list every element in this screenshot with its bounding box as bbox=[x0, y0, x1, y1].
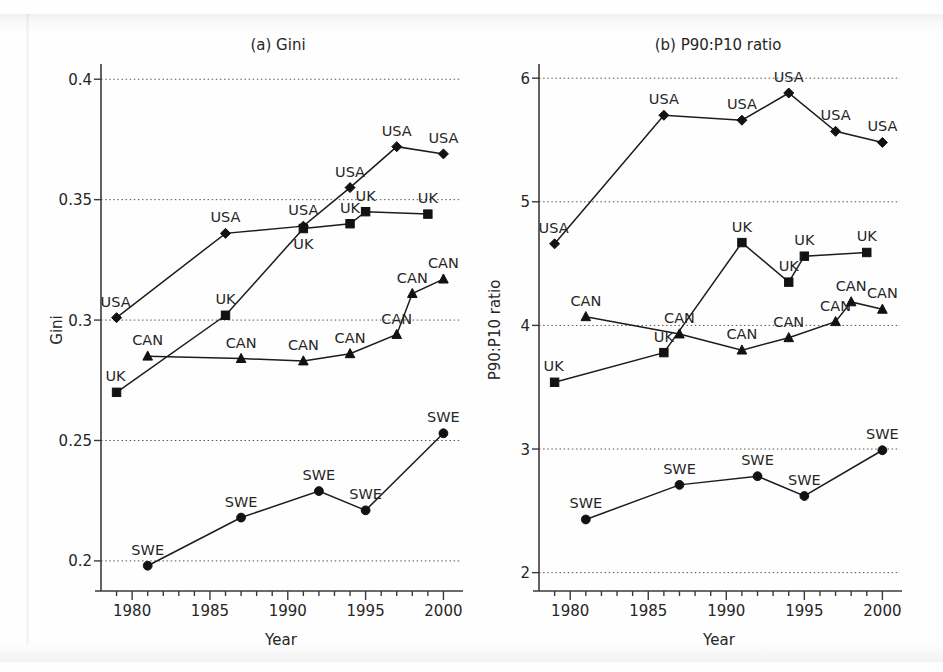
point-label-CAN: CAN bbox=[288, 337, 319, 353]
marker-circle bbox=[315, 487, 324, 496]
y-tick-label: 0.25 bbox=[59, 432, 92, 450]
series-CAN: CANCANCANCANCANCANCAN bbox=[132, 255, 459, 365]
point-label-USA: USA bbox=[101, 294, 131, 310]
marker-triangle bbox=[392, 329, 402, 338]
marker-circle bbox=[878, 446, 887, 455]
data-point-marker bbox=[392, 329, 402, 338]
marker-diamond bbox=[438, 149, 448, 159]
data-point-marker bbox=[361, 506, 370, 515]
marker-square bbox=[863, 248, 871, 256]
point-label-USA: USA bbox=[867, 118, 897, 134]
data-point-marker bbox=[143, 561, 152, 570]
point-label-UK: UK bbox=[544, 358, 565, 374]
data-point-marker bbox=[753, 472, 762, 481]
marker-square bbox=[550, 378, 558, 386]
series-CAN: CANCANCANCANCANCANCAN bbox=[570, 278, 897, 354]
series-UK: UKUKUKUKUKUK bbox=[106, 188, 439, 397]
data-point-marker bbox=[785, 278, 793, 286]
data-point-marker bbox=[361, 207, 369, 215]
x-tick-label: 1995 bbox=[347, 602, 385, 620]
point-label-SWE: SWE bbox=[788, 472, 821, 488]
panel-title: (a) Gini bbox=[250, 36, 305, 54]
marker-circle bbox=[800, 492, 809, 501]
marker-circle bbox=[361, 506, 370, 515]
marker-square bbox=[800, 252, 808, 260]
data-point-marker bbox=[878, 446, 887, 455]
point-label-USA: USA bbox=[428, 130, 458, 146]
data-point-marker bbox=[800, 492, 809, 501]
x-axis-label: Year bbox=[264, 631, 298, 649]
point-label-UK: UK bbox=[215, 291, 236, 307]
point-label-UK: UK bbox=[293, 236, 314, 252]
y-tick-label: 5 bbox=[520, 193, 530, 211]
data-point-marker bbox=[660, 348, 668, 356]
point-label-USA: USA bbox=[211, 209, 241, 225]
x-tick-label: 1985 bbox=[629, 602, 667, 620]
point-label-USA: USA bbox=[539, 220, 569, 236]
panel-title: (b) P90:P10 ratio bbox=[655, 36, 782, 54]
x-tick-label: 2000 bbox=[424, 602, 462, 620]
x-tick-label: 1990 bbox=[707, 602, 745, 620]
data-point-marker bbox=[346, 220, 354, 228]
data-point-marker bbox=[237, 513, 246, 522]
point-label-SWE: SWE bbox=[225, 494, 258, 510]
figure-canvas: (a) GiniGiniYear0.20.250.30.350.41980198… bbox=[0, 0, 943, 672]
point-label-USA: USA bbox=[821, 107, 851, 123]
data-point-marker bbox=[221, 311, 229, 319]
marker-circle bbox=[581, 515, 590, 524]
point-label-CAN: CAN bbox=[836, 278, 867, 294]
y-tick-label: 0.2 bbox=[68, 552, 92, 570]
y-tick-label: 6 bbox=[520, 70, 530, 88]
point-label-USA: USA bbox=[727, 96, 757, 112]
data-point-marker bbox=[737, 115, 747, 125]
point-label-CAN: CAN bbox=[226, 335, 257, 351]
marker-diamond bbox=[737, 115, 747, 125]
x-tick-label: 1980 bbox=[113, 602, 151, 620]
series-SWE: SWESWESWESWESWE bbox=[131, 409, 459, 570]
data-point-marker bbox=[439, 274, 449, 283]
point-label-UK: UK bbox=[732, 219, 753, 235]
y-axis-label: P90:P10 ratio bbox=[486, 280, 504, 381]
x-tick-label: 1980 bbox=[551, 602, 589, 620]
marker-square bbox=[660, 348, 668, 356]
data-point-marker bbox=[112, 388, 120, 396]
data-point-marker bbox=[581, 515, 590, 524]
point-label-CAN: CAN bbox=[867, 285, 898, 301]
series-USA: USAUSAUSAUSAUSAUSA bbox=[101, 123, 459, 323]
y-axis-label: Gini bbox=[48, 315, 66, 344]
data-point-marker bbox=[438, 149, 448, 159]
point-label-USA: USA bbox=[335, 164, 365, 180]
series-USA: USAUSAUSAUSAUSAUSA bbox=[539, 69, 898, 249]
data-point-marker bbox=[299, 224, 307, 232]
marker-circle bbox=[143, 561, 152, 570]
y-tick-label: 0.35 bbox=[59, 191, 92, 209]
point-label-SWE: SWE bbox=[303, 467, 336, 483]
marker-square bbox=[738, 238, 746, 246]
point-label-UK: UK bbox=[106, 368, 127, 384]
y-tick-label: 0.3 bbox=[68, 312, 92, 330]
series-line-SWE bbox=[148, 433, 444, 565]
marker-square bbox=[424, 210, 432, 218]
marker-triangle bbox=[408, 288, 418, 297]
point-label-UK: UK bbox=[779, 258, 800, 274]
point-label-SWE: SWE bbox=[131, 542, 164, 558]
point-label-CAN: CAN bbox=[773, 314, 804, 330]
y-tick-label: 4 bbox=[520, 317, 530, 335]
marker-triangle bbox=[581, 312, 591, 321]
marker-square bbox=[221, 311, 229, 319]
data-point-marker bbox=[315, 487, 324, 496]
data-point-marker bbox=[738, 238, 746, 246]
marker-square bbox=[112, 388, 120, 396]
x-tick-label: 1985 bbox=[191, 602, 229, 620]
marker-square bbox=[299, 224, 307, 232]
point-label-USA: USA bbox=[649, 91, 679, 107]
point-label-CAN: CAN bbox=[726, 326, 757, 342]
data-point-marker bbox=[863, 248, 871, 256]
point-label-UK: UK bbox=[356, 188, 377, 204]
marker-square bbox=[785, 278, 793, 286]
marker-square bbox=[346, 220, 354, 228]
marker-circle bbox=[753, 472, 762, 481]
point-label-CAN: CAN bbox=[132, 332, 163, 348]
series-line-UK bbox=[117, 212, 428, 393]
marker-triangle bbox=[439, 274, 449, 283]
